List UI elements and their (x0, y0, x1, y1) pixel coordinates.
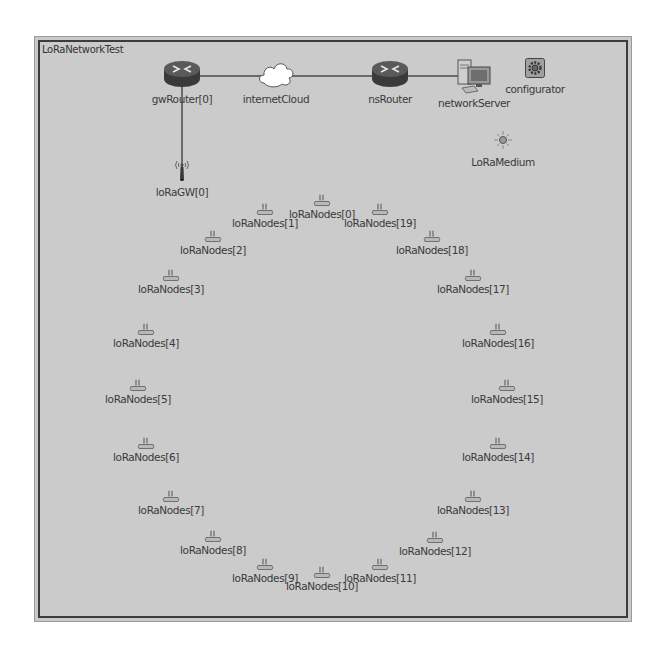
lora-node-label: loRaNodes[4] (113, 337, 179, 349)
lora-node-label: loRaNodes[3] (138, 283, 204, 295)
gear-icon (525, 58, 545, 82)
lora-node-label: loRaNodes[13] (437, 504, 509, 516)
lora-node-label: loRaNodes[7] (138, 504, 204, 516)
lora-node-label: loRaNodes[17] (437, 283, 509, 295)
server-icon (454, 58, 494, 98)
router-icon (163, 60, 201, 92)
gwrouter-label: gwRouter[0] (152, 93, 213, 105)
lora-medium-label: LoRaMedium (471, 156, 535, 168)
lora-gateway-label: loRaGW[0] (156, 186, 209, 198)
lora-node-label: loRaNodes[15] (471, 393, 543, 405)
network-title: LoRaNetworkTest (42, 44, 123, 55)
network-server-label: networkServer (438, 97, 510, 109)
lora-node-label: loRaNodes[6] (113, 451, 179, 463)
lora-node-label: loRaNodes[11] (344, 572, 416, 584)
configurator-label: configurator (505, 83, 565, 95)
lora-node-label: loRaNodes[19] (344, 217, 416, 229)
lora-node-label: loRaNodes[18] (396, 244, 468, 256)
antenna-icon (174, 158, 190, 186)
lora-node-label: loRaNodes[8] (180, 544, 246, 556)
network-canvas[interactable] (38, 40, 628, 618)
lora-node-label: loRaNodes[1] (232, 217, 298, 229)
nsrouter-label: nsRouter (368, 93, 412, 105)
lora-node-label: loRaNodes[14] (462, 451, 534, 463)
cloud-icon (256, 59, 296, 93)
router-icon (371, 60, 409, 92)
lora-node-label: loRaNodes[16] (462, 337, 534, 349)
radio-medium-icon (494, 131, 512, 153)
lora-node-label: loRaNodes[2] (180, 244, 246, 256)
lora-node-label: loRaNodes[12] (399, 545, 471, 557)
internet-cloud-label: internetCloud (243, 93, 309, 105)
lora-node-label: loRaNodes[5] (105, 393, 171, 405)
